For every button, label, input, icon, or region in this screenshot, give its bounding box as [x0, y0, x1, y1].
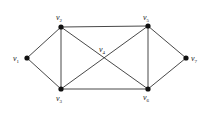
node-v1 — [24, 55, 29, 60]
edge-v5-v7 — [148, 26, 186, 58]
label-v7: v7 — [191, 54, 198, 64]
label-v5: v5 — [143, 13, 150, 23]
nodes-group — [24, 23, 188, 91]
label-v6: v6 — [143, 93, 150, 103]
label-v1: v1 — [13, 54, 20, 64]
node-v3 — [58, 86, 63, 91]
edge-v6-v7 — [148, 58, 186, 89]
node-v5 — [145, 23, 150, 28]
node-v2 — [58, 24, 63, 29]
label-v3: v3 — [56, 94, 63, 104]
edge-v1-v3 — [27, 58, 61, 89]
node-v7 — [183, 55, 188, 60]
label-v2: v2 — [56, 13, 63, 23]
edge-v2-v5 — [61, 26, 148, 27]
node-v6 — [145, 86, 150, 91]
edge-v1-v2 — [27, 27, 61, 58]
label-v4: v4 — [99, 45, 106, 55]
edges-group — [27, 26, 186, 89]
graph-diagram: v1v2v3v4v5v6v7 — [0, 0, 212, 116]
